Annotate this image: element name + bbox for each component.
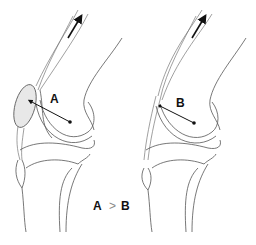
- right-tendon-line-2: [162, 14, 212, 100]
- right-tibia-anterior: [148, 190, 152, 232]
- comparison-right: B: [121, 199, 130, 213]
- right-patellar-tendon-1: [144, 96, 156, 160]
- comparison-operator: >: [109, 199, 116, 213]
- comparison-text: A > B: [93, 199, 130, 213]
- right-contact-point: [159, 105, 162, 108]
- right-patellar-tendon-2: [148, 100, 160, 160]
- left-fibula: [66, 164, 82, 232]
- left-patellar-tendon-2: [22, 128, 24, 160]
- right-femoral-condyle: [160, 102, 218, 137]
- left-tendon-line-3: [38, 16, 73, 90]
- left-label-A: A: [50, 92, 59, 106]
- left-force-arrow-icon: [68, 18, 80, 38]
- left-tibia-anterior: [22, 188, 26, 232]
- right-tibial-tuberosity: [142, 168, 151, 190]
- right-tibia-posterior: [185, 168, 198, 232]
- left-rotation-center: [68, 120, 72, 124]
- right-femur-posterior: [210, 38, 246, 130]
- left-tendon-line-2: [40, 14, 88, 90]
- comparison-left: A: [93, 199, 102, 213]
- left-patellar-tendon-1: [17, 126, 20, 160]
- left-femur-posterior: [84, 38, 122, 130]
- right-knee: B: [142, 10, 246, 232]
- right-fibula: [192, 164, 208, 232]
- right-condyle-cartilage: [156, 106, 216, 143]
- right-label-B: B: [176, 96, 185, 110]
- left-tendon-line-1: [36, 10, 78, 86]
- left-patella: [10, 82, 41, 130]
- knee-moment-arm-diagram: A B A > B: [0, 0, 256, 245]
- left-tibia-posterior: [59, 168, 72, 232]
- left-tibial-tuberosity: [16, 160, 25, 188]
- right-tendon-line-3: [160, 16, 196, 100]
- right-tibial-plateau: [146, 140, 221, 150]
- left-tibial-plateau: [20, 140, 95, 150]
- left-femoral-condyle: [40, 100, 94, 137]
- left-knee: A: [10, 10, 122, 232]
- right-rotation-center: [192, 121, 196, 125]
